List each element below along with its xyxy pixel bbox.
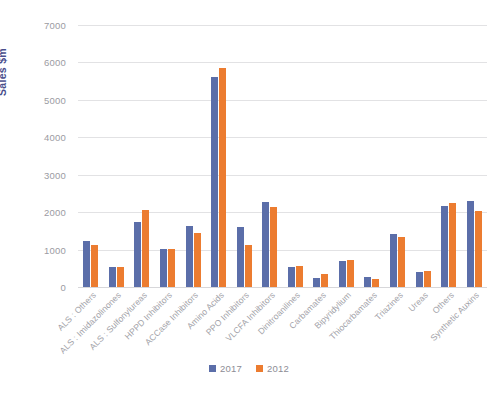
- bar-chart: Sales $m 70006000500040003000200010000 A…: [0, 0, 498, 397]
- bar-2012: [270, 207, 277, 287]
- bar-group: [155, 25, 181, 287]
- y-axis-tick-label: 7000: [44, 20, 66, 31]
- bar-2017: [339, 261, 346, 287]
- legend-swatch-icon: [256, 365, 263, 372]
- bar-group: [334, 25, 360, 287]
- bar-2012: [168, 249, 175, 287]
- bar-groups: [78, 25, 487, 287]
- bar-group: [180, 25, 206, 287]
- legend-label: 2012: [267, 363, 289, 374]
- legend-item[interactable]: 2012: [256, 363, 289, 374]
- bar-2017: [416, 272, 423, 287]
- y-axis-tick-label: 6000: [44, 57, 66, 68]
- bar-2017: [237, 227, 244, 287]
- legend-item[interactable]: 2017: [209, 363, 242, 374]
- bar-2017: [441, 206, 448, 287]
- bar-group: [78, 25, 104, 287]
- bar-2012: [142, 210, 149, 287]
- legend-label: 2017: [220, 363, 242, 374]
- y-axis-tick-label: 4000: [44, 132, 66, 143]
- bar-2012: [219, 68, 226, 287]
- bar-2012: [372, 279, 379, 287]
- bar-2012: [347, 260, 354, 287]
- bar-group: [283, 25, 309, 287]
- bar-group: [410, 25, 436, 287]
- bar-2012: [296, 266, 303, 287]
- bar-group: [436, 25, 462, 287]
- bar-2017: [467, 201, 474, 287]
- bar-group: [308, 25, 334, 287]
- bar-2012: [245, 245, 252, 287]
- bar-2017: [83, 241, 90, 287]
- y-axis-tick-label: 1000: [44, 244, 66, 255]
- bar-2017: [288, 267, 295, 287]
- bar-group: [104, 25, 130, 287]
- bar-2017: [364, 277, 371, 287]
- bar-2012: [321, 274, 328, 287]
- bar-2017: [186, 226, 193, 287]
- legend-swatch-icon: [209, 365, 216, 372]
- bar-2012: [424, 271, 431, 287]
- bar-group: [257, 25, 283, 287]
- bar-2017: [390, 234, 397, 287]
- bar-2017: [211, 77, 218, 287]
- y-axis-tick-label: 3000: [44, 169, 66, 180]
- bar-2017: [109, 267, 116, 287]
- bar-group: [231, 25, 257, 287]
- bar-2017: [134, 222, 141, 288]
- bar-group: [359, 25, 385, 287]
- bar-2017: [262, 202, 269, 287]
- y-axis-tick-labels: 70006000500040003000200010000: [0, 25, 72, 287]
- y-axis-tick-label: 2000: [44, 207, 66, 218]
- bar-group: [461, 25, 487, 287]
- bar-2012: [194, 233, 201, 287]
- bar-2012: [117, 267, 124, 287]
- bar-2012: [398, 237, 405, 287]
- bar-2012: [449, 203, 456, 287]
- bar-2017: [313, 278, 320, 287]
- bar-group: [129, 25, 155, 287]
- bar-group: [385, 25, 411, 287]
- bar-2012: [475, 211, 482, 287]
- plot-area: [78, 25, 487, 287]
- bar-group: [206, 25, 232, 287]
- bar-2012: [91, 245, 98, 287]
- y-axis-tick-label: 5000: [44, 94, 66, 105]
- y-axis-tick-label: 0: [61, 282, 66, 293]
- chart-legend: 20172012: [0, 363, 498, 374]
- bar-2017: [160, 249, 167, 287]
